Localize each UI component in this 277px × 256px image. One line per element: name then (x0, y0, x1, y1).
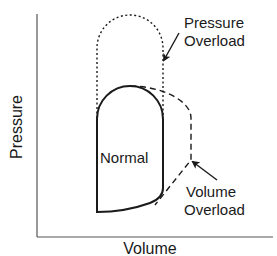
volume-overload-label-line1: Volume (186, 183, 236, 200)
volume-overload-arrow (193, 162, 217, 180)
y-axis-label: Pressure (8, 95, 25, 159)
pressure-volume-diagram: Normal Pressure Overload Volume Overload… (0, 0, 277, 256)
pressure-overload-loop (97, 15, 163, 118)
pressure-overload-label-line2: Overload (184, 32, 245, 49)
pressure-overload-arrow (164, 33, 179, 60)
volume-overload-label-line2: Overload (184, 201, 245, 218)
normal-label: Normal (100, 149, 148, 166)
pressure-overload-label-line1: Pressure (184, 14, 244, 31)
x-axis-label: Volume (123, 240, 176, 256)
